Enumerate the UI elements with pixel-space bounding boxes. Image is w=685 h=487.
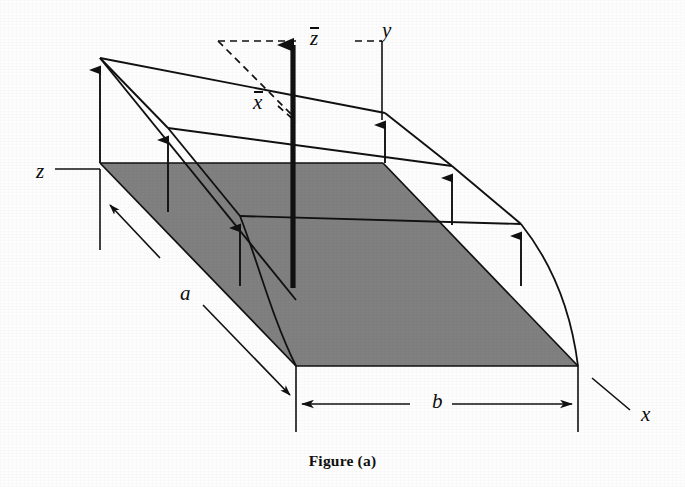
axis-label-y: y <box>382 20 391 41</box>
figure-caption: Figure (a) <box>0 452 685 470</box>
load-diagram-svg <box>0 0 685 487</box>
centroid-dashed-lines <box>218 41 382 122</box>
centroid-label-z-bar: z <box>310 26 318 49</box>
centroid-label-x-bar: x <box>253 90 262 113</box>
axis-label-z: z <box>36 161 44 182</box>
z-axis-line <box>55 169 100 250</box>
figure-container: z x y z x a b Figure (a) <box>0 0 685 487</box>
x-axis-line <box>578 366 630 432</box>
dimension-label-b: b <box>432 391 443 412</box>
plate-surface <box>100 163 578 366</box>
dimension-label-a: a <box>180 283 191 304</box>
axis-label-x: x <box>641 404 650 425</box>
